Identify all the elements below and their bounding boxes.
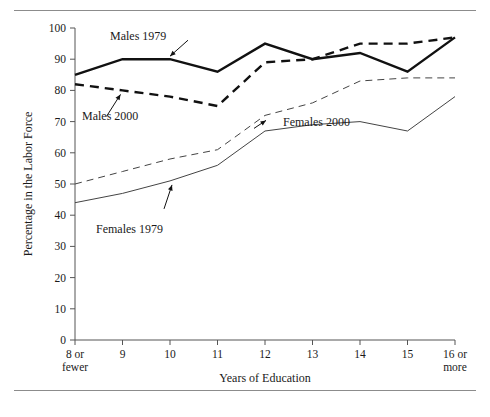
y-tick-label-20: 20 xyxy=(55,272,67,284)
x-tick-label-3: 11 xyxy=(212,348,223,360)
x-tick-label-7: 15 xyxy=(402,348,414,360)
series-line-males-2000 xyxy=(75,37,455,106)
line-chart-figure: 0102030405060708090100 8 orfewer91011121… xyxy=(0,0,490,417)
series-line-males-1979 xyxy=(75,37,455,74)
x-tick-label-0: 8 orfewer xyxy=(62,348,88,373)
y-tick-label-0: 0 xyxy=(60,334,66,346)
y-tick-label-90: 90 xyxy=(55,53,67,65)
y-tick-label-70: 70 xyxy=(55,116,67,128)
x-axis-tick-labels: 8 orfewer910111213141516 ormore xyxy=(62,348,467,373)
y-axis-title: Percentage in the Labor Force xyxy=(21,112,35,257)
annotation-arrowhead-males-2000 xyxy=(116,94,121,100)
y-tick-label-10: 10 xyxy=(55,303,67,315)
x-tick-label-6: 14 xyxy=(354,348,366,360)
y-tick-label-80: 80 xyxy=(55,84,67,96)
annotation-arrowhead-females-2000 xyxy=(260,120,266,125)
y-axis-tick-labels: 0102030405060708090100 xyxy=(49,22,67,346)
annotation-arrowhead-females-1979 xyxy=(168,185,173,191)
y-tick-label-100: 100 xyxy=(49,22,67,34)
x-axis-title: Years of Education xyxy=(219,371,310,385)
series-label-males-1979: Males 1979 xyxy=(110,29,166,43)
chart-svg: 0102030405060708090100 8 orfewer91011121… xyxy=(0,0,490,417)
x-tick-label-1: 9 xyxy=(120,348,126,360)
series-label-females-1979: Females 1979 xyxy=(96,222,163,236)
x-tick-label-4: 12 xyxy=(259,348,271,360)
y-tick-label-50: 50 xyxy=(55,178,67,190)
series-label-males-2000: Males 2000 xyxy=(82,109,138,123)
chart-axes xyxy=(70,28,455,345)
series-label-females-2000: Females 2000 xyxy=(283,115,350,129)
x-tick-label-8: 16 ormore xyxy=(443,348,467,373)
x-axis-ticks xyxy=(75,340,455,345)
y-tick-label-60: 60 xyxy=(55,147,67,159)
y-tick-label-30: 30 xyxy=(55,240,67,252)
y-axis-ticks xyxy=(70,28,75,340)
x-tick-label-5: 13 xyxy=(307,348,319,360)
x-tick-label-2: 10 xyxy=(164,348,176,360)
y-tick-label-40: 40 xyxy=(55,209,67,221)
